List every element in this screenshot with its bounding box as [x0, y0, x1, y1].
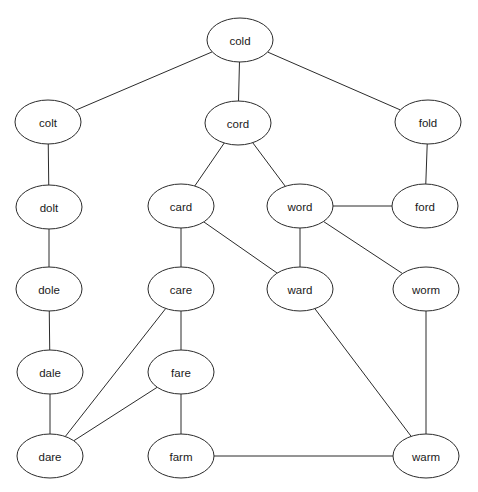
graph-node-ward[interactable]: ward [267, 267, 333, 311]
graph-edge [195, 143, 225, 186]
node-ellipse[interactable] [393, 434, 459, 478]
graph-node-ford[interactable]: ford [392, 184, 458, 228]
node-ellipse[interactable] [16, 185, 82, 229]
node-ellipse[interactable] [148, 267, 214, 311]
graph-diagram: coldcoltcordfolddoltcardwordforddolecare… [0, 0, 478, 492]
node-ellipse[interactable] [15, 100, 81, 144]
graph-node-warm[interactable]: warm [393, 434, 459, 478]
graph-node-care[interactable]: care [148, 267, 214, 311]
graph-edge [253, 143, 286, 187]
graph-node-dolt[interactable]: dolt [16, 185, 82, 229]
graph-edge [74, 387, 157, 441]
node-ellipse[interactable] [205, 101, 271, 145]
graph-edge [268, 52, 401, 110]
graph-node-word[interactable]: word [267, 184, 333, 228]
node-layer: coldcoltcordfolddoltcardwordforddolecare… [15, 18, 461, 478]
graph-node-worm[interactable]: worm [393, 267, 459, 311]
node-ellipse[interactable] [267, 184, 333, 228]
graph-edge [426, 144, 427, 184]
graph-edge [204, 222, 277, 273]
node-ellipse[interactable] [17, 434, 83, 478]
node-ellipse[interactable] [267, 267, 333, 311]
node-ellipse[interactable] [148, 434, 214, 478]
node-ellipse[interactable] [148, 184, 214, 228]
graph-node-fold[interactable]: fold [395, 100, 461, 144]
graph-edge [315, 309, 411, 437]
graph-canvas: coldcoltcordfolddoltcardwordforddolecare… [0, 0, 478, 492]
node-ellipse[interactable] [207, 18, 273, 62]
graph-node-colt[interactable]: colt [15, 100, 81, 144]
node-ellipse[interactable] [17, 350, 83, 394]
node-ellipse[interactable] [148, 350, 214, 394]
node-ellipse[interactable] [16, 267, 82, 311]
graph-edge [239, 62, 240, 101]
node-ellipse[interactable] [393, 267, 459, 311]
graph-node-fare[interactable]: fare [148, 350, 214, 394]
graph-node-card[interactable]: card [148, 184, 214, 228]
node-ellipse[interactable] [395, 100, 461, 144]
graph-edge [323, 221, 402, 273]
graph-node-dole[interactable]: dole [16, 267, 82, 311]
graph-node-cold[interactable]: cold [207, 18, 273, 62]
graph-node-dale[interactable]: dale [17, 350, 83, 394]
graph-node-cord[interactable]: cord [205, 101, 271, 145]
graph-node-farm[interactable]: farm [148, 434, 214, 478]
graph-node-dare[interactable]: dare [17, 434, 83, 478]
graph-edge [76, 52, 212, 110]
node-ellipse[interactable] [392, 184, 458, 228]
